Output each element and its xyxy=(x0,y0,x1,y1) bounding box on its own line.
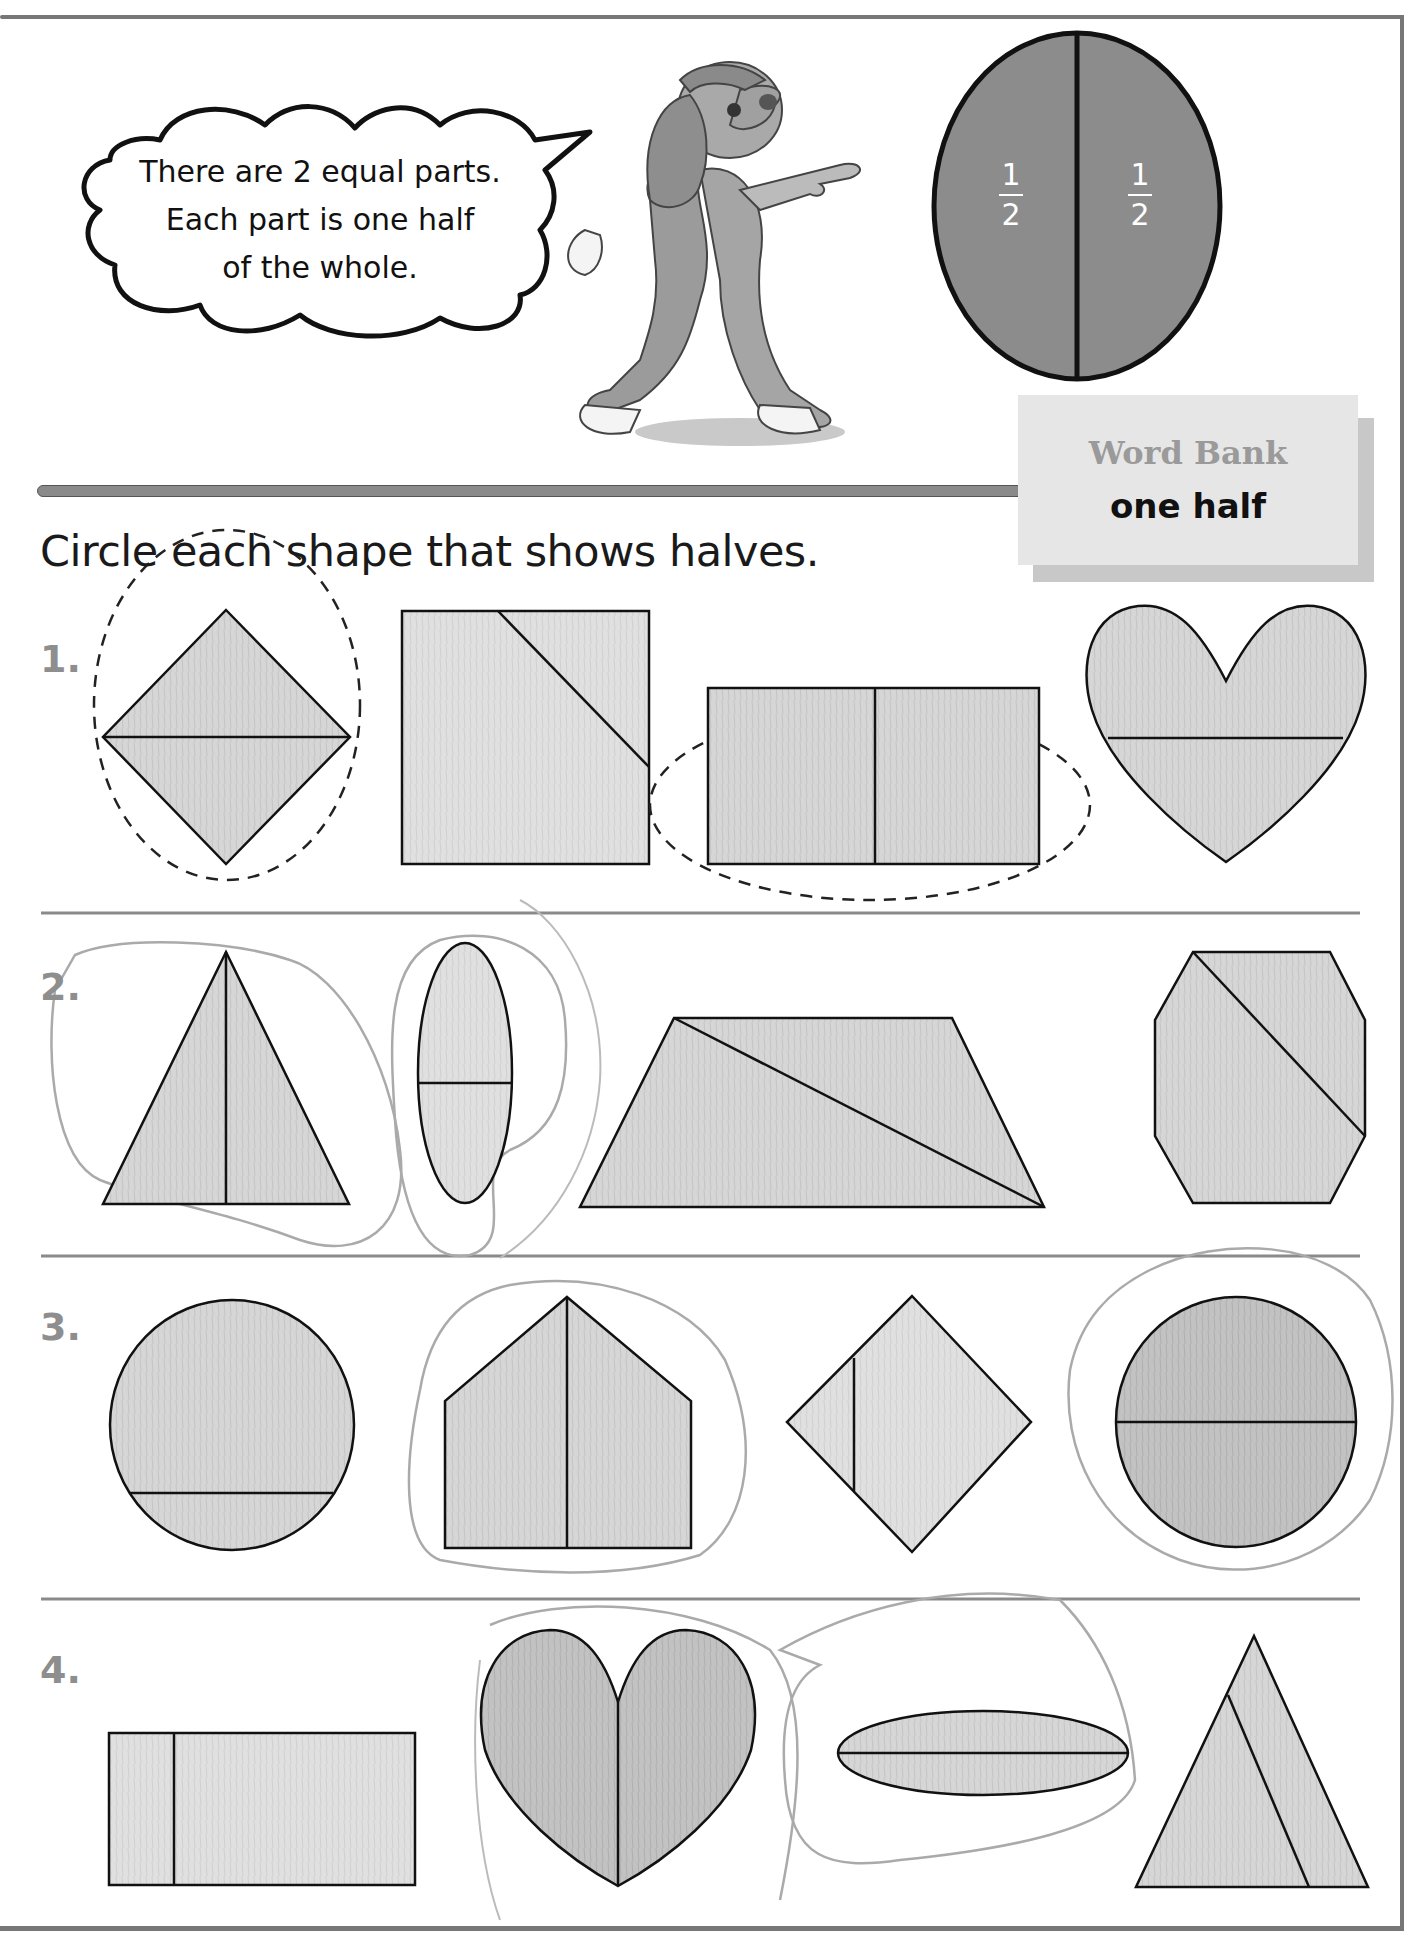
row-2-shapes xyxy=(51,900,1365,1258)
instruction-text: Circle each shape that shows halves. xyxy=(40,526,819,576)
fraction-label-left: 1 2 xyxy=(991,158,1031,232)
shape-trapezoid-diagonal[interactable] xyxy=(580,1018,1044,1207)
shape-circle-unequal[interactable] xyxy=(110,1300,354,1550)
shape-rectangle-diagonal[interactable] xyxy=(402,611,649,864)
example-halves-circle xyxy=(934,33,1220,379)
fraction-bar xyxy=(999,194,1023,196)
shape-diamond-halved[interactable] xyxy=(103,610,350,864)
shape-triangle-unequal[interactable] xyxy=(1136,1636,1368,1887)
section-divider-bar xyxy=(37,485,1029,497)
row-3-shapes xyxy=(110,1248,1393,1572)
row-number-3: 3. xyxy=(40,1305,81,1349)
fraction-numerator: 1 xyxy=(1130,157,1149,192)
shape-triangle-halved[interactable] xyxy=(103,952,349,1204)
speech-bubble-text: There are 2 equal parts. Each part is on… xyxy=(95,148,545,292)
bubble-line: There are 2 equal parts. xyxy=(95,148,545,196)
shape-oval-halved[interactable] xyxy=(838,1711,1128,1795)
fraction-label-right: 1 2 xyxy=(1120,158,1160,232)
fraction-bar xyxy=(1128,194,1152,196)
shape-octagon-diagonal[interactable] xyxy=(1155,952,1365,1203)
row-1-shapes xyxy=(94,530,1365,900)
shape-circle-halved[interactable] xyxy=(1116,1297,1356,1547)
word-bank: Word Bank one half xyxy=(1018,395,1358,565)
fraction-denominator: 2 xyxy=(1001,197,1020,232)
shape-heart-halved[interactable] xyxy=(481,1630,755,1886)
bubble-line: Each part is one half xyxy=(95,196,545,244)
shape-pentagon-halved[interactable] xyxy=(445,1297,691,1548)
row-number-2: 2. xyxy=(40,965,81,1009)
word-bank-word: one half xyxy=(1110,486,1266,526)
fraction-numerator: 1 xyxy=(1001,157,1020,192)
shape-rectangle-halved[interactable] xyxy=(708,688,1039,864)
shape-oval-halved[interactable] xyxy=(418,943,512,1203)
row-4-shapes xyxy=(109,1594,1368,1920)
word-bank-title: Word Bank xyxy=(1089,434,1287,472)
shape-rectangle-unequal[interactable] xyxy=(109,1733,415,1885)
shape-diamond-unequal[interactable] xyxy=(787,1296,1031,1552)
row-number-1: 1. xyxy=(40,637,81,681)
row-number-4: 4. xyxy=(40,1648,81,1692)
dog-mascot-illustration xyxy=(568,62,860,446)
fraction-denominator: 2 xyxy=(1130,197,1149,232)
shape-heart-unequal[interactable] xyxy=(1087,606,1366,862)
bubble-line: of the whole. xyxy=(95,244,545,292)
